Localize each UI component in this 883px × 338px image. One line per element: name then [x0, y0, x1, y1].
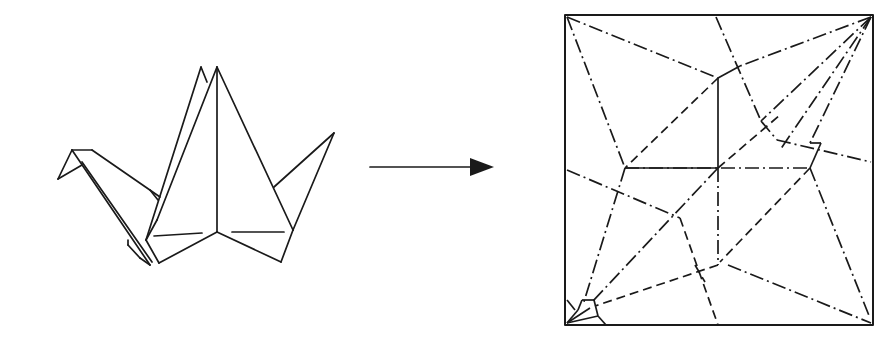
mountain-fold-crease	[728, 265, 871, 323]
mountain-fold-crease	[780, 17, 871, 150]
mountain-fold-crease	[583, 168, 625, 305]
valley-fold-crease	[720, 168, 810, 262]
mountain-fold-crease	[567, 170, 680, 218]
mountain-fold-crease	[777, 140, 871, 162]
solidc-fold-crease	[578, 300, 582, 310]
mountain-fold-crease	[761, 17, 871, 121]
mountain-fold-crease	[592, 168, 718, 302]
mountain-fold-crease	[567, 17, 625, 168]
crane-fold-line	[72, 150, 150, 265]
mountain-fold-crease	[761, 121, 777, 140]
origami-diagram: Origami crane to crease pattern	[0, 0, 883, 338]
solidc-fold-crease	[718, 66, 740, 78]
crane-fold-line	[281, 230, 293, 262]
diagram-canvas	[0, 0, 883, 338]
crane-fold-line	[154, 233, 202, 236]
solidc-fold-crease	[594, 300, 598, 316]
mountain-fold-crease	[567, 17, 718, 78]
mountain-fold-crease	[716, 17, 761, 121]
solidc-fold-crease	[598, 316, 606, 325]
arrow-head-icon	[470, 158, 494, 176]
mountain-fold-crease	[740, 17, 871, 66]
crane-fold-line	[82, 162, 152, 262]
crane-fold-line	[293, 133, 334, 230]
origami-crane	[58, 67, 334, 265]
solidc-fold-crease	[567, 300, 575, 310]
solidc-fold-crease	[810, 143, 821, 168]
crane-fold-line	[217, 67, 293, 230]
crane-fold-line	[159, 232, 217, 263]
crease-pattern-square	[565, 15, 873, 325]
crane-fold-line	[146, 240, 159, 263]
crane-fold-line	[274, 133, 334, 187]
crane-fold-line	[146, 67, 201, 240]
arrow-right	[370, 158, 494, 176]
crane-fold-line	[201, 67, 207, 82]
crane-fold-line	[157, 67, 217, 220]
paper-square-border	[565, 15, 873, 325]
crane-fold-line	[217, 232, 281, 262]
mountain-fold-crease	[810, 168, 870, 318]
valley-fold-crease	[625, 78, 718, 168]
valley-fold-crease	[718, 115, 780, 168]
